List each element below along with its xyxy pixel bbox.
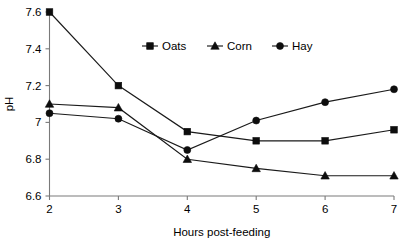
- data-series-group: [45, 9, 398, 179]
- series-line-hay: [50, 89, 395, 150]
- data-point-hay-6: [322, 99, 329, 106]
- data-point-oats-7: [391, 126, 398, 133]
- y-tick-label: 7.6: [26, 6, 42, 18]
- x-tick-label: 6: [322, 203, 328, 215]
- series-line-oats: [50, 12, 395, 141]
- x-tick-label: 3: [115, 203, 121, 215]
- chart-legend: OatsCornHay: [142, 40, 313, 52]
- data-point-oats-4: [184, 128, 191, 135]
- y-tick-label: 7.2: [26, 80, 42, 92]
- x-axis-tick-marks: [50, 196, 395, 200]
- legend-label-corn: Corn: [227, 40, 252, 52]
- x-axis-tick-labels: 234567: [46, 203, 397, 215]
- x-axis-title: Hours post-feeding: [173, 226, 270, 238]
- data-point-hay-5: [253, 117, 260, 124]
- legend-marker-oats: [147, 43, 154, 50]
- chart-canvas: 6.66.877.27.47.6 234567 OatsCornHay pH H…: [0, 0, 407, 246]
- y-tick-label: 7.4: [26, 43, 43, 55]
- data-point-oats-5: [253, 138, 260, 145]
- data-point-oats-2: [46, 9, 53, 16]
- legend-label-oats: Oats: [162, 40, 187, 52]
- y-tick-label: 6.6: [26, 190, 42, 202]
- x-tick-label: 4: [184, 203, 191, 215]
- y-tick-label: 6.8: [26, 153, 42, 165]
- x-tick-label: 7: [391, 203, 397, 215]
- data-point-hay-3: [115, 115, 122, 122]
- data-point-oats-6: [322, 138, 329, 145]
- x-tick-label: 2: [46, 203, 52, 215]
- data-point-hay-4: [184, 147, 191, 154]
- data-point-corn-4: [183, 155, 191, 162]
- y-tick-label: 7: [35, 116, 41, 128]
- x-tick-label: 5: [253, 203, 259, 215]
- ph-line-chart: 6.66.877.27.47.6 234567 OatsCornHay pH H…: [0, 0, 407, 246]
- legend-entry-oats: Oats: [142, 40, 187, 52]
- series-corn: [45, 100, 398, 179]
- data-point-oats-3: [115, 82, 122, 89]
- y-axis-title: pH: [3, 97, 15, 112]
- series-line-corn: [50, 104, 395, 176]
- series-oats: [46, 9, 397, 144]
- y-axis-tick-labels: 6.66.877.27.47.6: [26, 6, 43, 202]
- legend-entry-hay: Hay: [272, 40, 313, 52]
- data-point-hay-7: [391, 86, 398, 93]
- data-point-corn-2: [45, 100, 53, 107]
- series-hay: [46, 86, 398, 154]
- data-point-hay-2: [46, 110, 53, 117]
- legend-marker-hay: [277, 43, 284, 50]
- legend-label-hay: Hay: [292, 40, 313, 52]
- legend-entry-corn: Corn: [207, 40, 252, 52]
